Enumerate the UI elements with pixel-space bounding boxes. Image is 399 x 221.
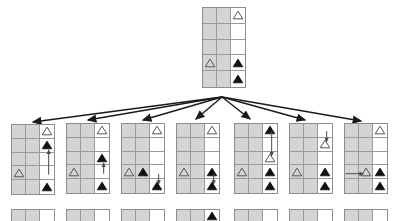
child-state-node-4[interactable] xyxy=(176,123,220,194)
grid-cell-r3-c1[interactable] xyxy=(304,165,318,179)
grid-cell-r3-c2[interactable] xyxy=(263,165,277,179)
grid-cell-r0-c1[interactable] xyxy=(217,8,231,24)
grid-cell-r0-c1[interactable] xyxy=(26,125,40,139)
grid-cell-r1-c1[interactable] xyxy=(217,24,231,40)
grid-cell-r0-c0[interactable] xyxy=(122,124,136,138)
grid-cell-r2-c2[interactable] xyxy=(318,152,332,166)
grid-cell-r4-c0[interactable] xyxy=(122,179,136,193)
grid-cell-r2-c1[interactable] xyxy=(26,153,40,167)
grid-cell-r4-c0[interactable] xyxy=(235,179,249,193)
grid-cell-r0-c0[interactable] xyxy=(203,8,217,24)
grid-cell-r1-c2[interactable] xyxy=(231,24,245,40)
grid-cell-r0-c2[interactable] xyxy=(263,124,277,138)
grid-cell-r2-c0[interactable] xyxy=(345,152,359,166)
grid-cell-r0-c0[interactable] xyxy=(235,124,249,138)
grid-cell-r0-c1[interactable] xyxy=(249,124,263,138)
child-state-node-5[interactable] xyxy=(234,123,278,194)
grid-cell-r1-c0[interactable] xyxy=(235,138,249,152)
grid-cell-r4-c1[interactable] xyxy=(359,179,373,193)
grid-cell-r0-c2[interactable] xyxy=(373,124,387,138)
grid-cell-r4-c0[interactable] xyxy=(12,180,26,194)
root-state-node[interactable] xyxy=(202,7,246,88)
grid-cell-r0-c2[interactable] xyxy=(231,8,245,24)
grid-cell-r2-c0[interactable] xyxy=(235,152,249,166)
grid-cell-r4-c2[interactable] xyxy=(231,71,245,87)
grid-cell-r1-c2[interactable] xyxy=(373,138,387,152)
grid-cell-r0-c1[interactable] xyxy=(191,124,205,138)
grid-cell-r1-c0[interactable] xyxy=(177,138,191,152)
grid-cell-r2-c2[interactable] xyxy=(205,152,219,166)
grid-cell-r3-c2[interactable] xyxy=(95,165,109,179)
grid-cell-r1-c0[interactable] xyxy=(203,24,217,40)
grid-cell-r2-c2[interactable] xyxy=(373,152,387,166)
grid-cell-r4-c0[interactable] xyxy=(345,179,359,193)
grid-cell-r1-c0[interactable] xyxy=(345,138,359,152)
grid-cell-r0-c2[interactable] xyxy=(150,124,164,138)
grid-cell-r4-c0[interactable] xyxy=(67,179,81,193)
grid-cell-r1-c0[interactable] xyxy=(67,138,81,152)
grid-cell-r1-c1[interactable] xyxy=(359,138,373,152)
grid-cell-r0-c0[interactable] xyxy=(290,124,304,138)
grid-cell-r3-c0[interactable] xyxy=(67,165,81,179)
grid-cell-r0-c2[interactable] xyxy=(205,124,219,138)
grid-cell-r4-c1[interactable] xyxy=(217,71,231,87)
grid-cell-r3-c0[interactable] xyxy=(177,165,191,179)
grid-cell-r1-c1[interactable] xyxy=(81,138,95,152)
grid-cell-r3-c1[interactable] xyxy=(81,165,95,179)
grid-cell-r0-c0[interactable] xyxy=(177,124,191,138)
grid-cell-r1-c2[interactable] xyxy=(150,138,164,152)
grid-cell-r1-c1[interactable] xyxy=(249,138,263,152)
grid-cell-r1-c2[interactable] xyxy=(40,139,54,153)
grid-cell-r2-c1[interactable] xyxy=(217,40,231,56)
grid-cell-r3-c1[interactable] xyxy=(136,165,150,179)
grid-cell-r2-c2[interactable] xyxy=(40,153,54,167)
grid-cell-r4-c0[interactable] xyxy=(290,179,304,193)
grid-cell-r4-c1[interactable] xyxy=(26,180,40,194)
grid-cell-r0-c1[interactable] xyxy=(359,124,373,138)
grid-cell-r4-c1[interactable] xyxy=(304,179,318,193)
grid-cell-r2-c0[interactable] xyxy=(177,152,191,166)
grid-cell-r3-c0[interactable] xyxy=(345,165,359,179)
grid-cell-r3-c2[interactable] xyxy=(150,165,164,179)
grid-cell-r4-c1[interactable] xyxy=(136,179,150,193)
grid-cell-r3-c1[interactable] xyxy=(26,166,40,180)
grid-cell-r0-c2[interactable] xyxy=(40,125,54,139)
grid-cell-r4-c2[interactable] xyxy=(205,179,219,193)
grid-cell-r3-c2[interactable] xyxy=(40,166,54,180)
grid-cell-r2-c0[interactable] xyxy=(67,152,81,166)
grid-cell-r4-c1[interactable] xyxy=(191,179,205,193)
grid-cell-r1-c1[interactable] xyxy=(26,139,40,153)
grid-cell-r2-c1[interactable] xyxy=(249,152,263,166)
grid-cell-r3-c2[interactable] xyxy=(231,55,245,71)
grid-cell-r2-c2[interactable] xyxy=(231,40,245,56)
grid-cell-r1-c0[interactable] xyxy=(290,138,304,152)
grid-cell-r4-c0[interactable] xyxy=(177,179,191,193)
grid-cell-r2-c0[interactable] xyxy=(290,152,304,166)
grid-cell-r2-c1[interactable] xyxy=(359,152,373,166)
grid-cell-r4-c2[interactable] xyxy=(95,179,109,193)
grid-cell-r2-c1[interactable] xyxy=(304,152,318,166)
grid-cell-r3-c1[interactable] xyxy=(249,165,263,179)
grid-cell-r0-c0[interactable] xyxy=(345,124,359,138)
grid-cell-r0-c1[interactable] xyxy=(136,124,150,138)
grid-cell-r2-c0[interactable] xyxy=(203,40,217,56)
grid-cell-r1-c2[interactable] xyxy=(95,138,109,152)
grid-cell-r2-c1[interactable] xyxy=(191,152,205,166)
grid-cell-r4-c0[interactable] xyxy=(203,71,217,87)
grid-cell-r1-c0[interactable] xyxy=(12,139,26,153)
grid-cell-r1-c1[interactable] xyxy=(304,138,318,152)
grid-cell-r2-c0[interactable] xyxy=(12,153,26,167)
grid-cell-r2-c0[interactable] xyxy=(122,152,136,166)
grid-cell-r1-c1[interactable] xyxy=(136,138,150,152)
child-state-node-6[interactable] xyxy=(289,123,333,194)
grid-cell-r2-c2[interactable] xyxy=(263,152,277,166)
grid-cell-r2-c2[interactable] xyxy=(150,152,164,166)
grid-cell-r1-c1[interactable] xyxy=(191,138,205,152)
grid-cell-r4-c1[interactable] xyxy=(81,179,95,193)
grid-cell-r1-c2[interactable] xyxy=(205,138,219,152)
grid-cell-r3-c0[interactable] xyxy=(203,55,217,71)
child-state-node-1[interactable] xyxy=(11,124,55,195)
grid-cell-r3-c0[interactable] xyxy=(12,166,26,180)
grid-cell-r3-c0[interactable] xyxy=(235,165,249,179)
child-state-node-2[interactable] xyxy=(66,123,110,194)
